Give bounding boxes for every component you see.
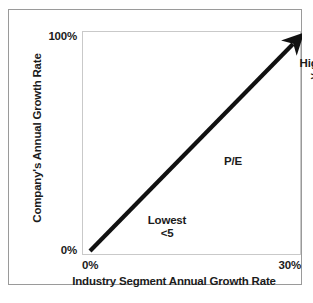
x-axis-tick-right: 30% [209,259,301,272]
y-axis-title: Company's Annual Growth Rate [31,26,43,250]
annotation-highest: Highest >25 [289,57,313,83]
annotation-pe: P/E [216,155,250,168]
plot-area: Lowest <5 P/E Highest >25 [82,31,301,255]
outer-border: Company's Annual Growth Rate 100% 0% Low… [8,9,302,285]
annotation-lowest-value: <5 [141,227,193,240]
x-axis-tick-left: 0% [82,259,98,272]
annotation-highest-value: >25 [289,70,313,83]
y-axis-tick-top: 100% [9,30,77,43]
annotation-lowest: Lowest <5 [141,214,193,240]
x-axis-title: Industry Segment Annual Growth Rate [34,275,313,287]
annotation-lowest-label: Lowest [148,214,186,226]
y-axis-tick-bottom: 0% [9,244,77,257]
annotation-highest-label: Highest [300,57,313,69]
chart-canvas: Company's Annual Growth Rate 100% 0% Low… [0,0,313,303]
annotation-pe-label: P/E [224,155,242,167]
